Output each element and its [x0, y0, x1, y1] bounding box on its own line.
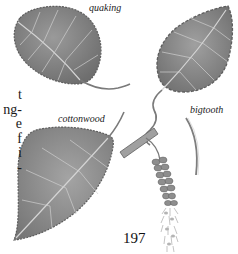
quaking-leaf-icon	[14, 6, 130, 89]
leaf-illustrations	[0, 0, 238, 254]
book-page: quaking bigtooth cottonwood t ng- e f i …	[0, 0, 238, 254]
bigtooth-label: bigtooth	[190, 104, 223, 115]
body-text-line: -	[0, 161, 22, 176]
body-text-line: ng-	[0, 103, 22, 118]
body-text-line: i	[0, 146, 22, 161]
petiole-icon	[186, 118, 197, 175]
page-number: 197	[123, 230, 146, 247]
body-text-line: t	[0, 88, 22, 103]
cottonwood-leaf-icon	[14, 112, 124, 240]
body-text-line: e	[0, 117, 22, 132]
cottonwood-label: cottonwood	[58, 113, 105, 124]
body-text-fragment: t ng- e f i -	[0, 88, 22, 175]
quaking-label: quaking	[89, 2, 121, 13]
body-text-line: f	[0, 132, 22, 147]
